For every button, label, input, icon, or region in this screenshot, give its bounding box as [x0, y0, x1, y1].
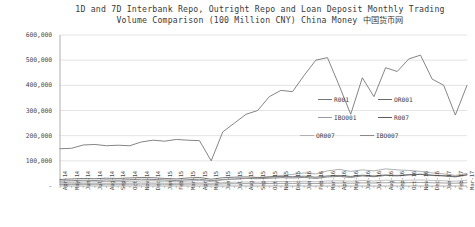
x-axis-tick-label: Mar-15	[190, 171, 196, 190]
legend-item-r001[interactable]: R001	[318, 95, 349, 103]
legend-label: IBO007	[376, 132, 398, 139]
x-axis-tick-label: Oct-16	[411, 171, 417, 190]
x-axis-tick-label: Feb-15	[178, 171, 184, 190]
x-axis-tick-label: Feb-16	[318, 171, 324, 190]
x-axis-tick-label: May-15	[213, 171, 219, 190]
legend-color-swatch	[300, 135, 314, 136]
legend-label: OR001	[394, 96, 413, 103]
x-axis-tick-label: Sep-14	[120, 171, 126, 190]
y-axis-tick-label: 600,000	[0, 31, 52, 39]
x-axis-tick-label: Aug-16	[388, 171, 394, 190]
y-axis-tick-label: 200,000	[0, 132, 52, 140]
legend-color-swatch	[378, 117, 392, 118]
x-axis-tick-label: Jun-16	[365, 171, 371, 190]
x-axis-tick-label: Aug-14	[109, 171, 115, 190]
y-axis-tick-label: -	[0, 182, 52, 190]
x-axis-tick-label: Jan-15	[167, 171, 173, 190]
x-axis-tick-label: Nov-16	[423, 171, 429, 190]
x-axis-tick-label: Jan-17	[446, 171, 452, 190]
legend-color-swatch	[360, 135, 374, 136]
y-axis-tick-label: 300,000	[0, 107, 52, 115]
x-axis-tick-label: Apr-16	[341, 171, 347, 190]
x-axis-tick-label: Jul-16	[376, 171, 382, 190]
y-axis-tick-label: 500,000	[0, 56, 52, 64]
legend-label: OR007	[316, 132, 335, 139]
x-axis-tick-label: Nov-15	[283, 171, 289, 190]
series-line-r001	[60, 55, 467, 161]
x-axis-tick-label: Mar-17	[469, 171, 475, 190]
legend-color-swatch	[378, 99, 392, 100]
y-axis-tick-label: 400,000	[0, 81, 52, 89]
x-axis-tick-label: Jan-16	[306, 171, 312, 190]
x-axis-tick-label: Nov-14	[144, 171, 150, 190]
legend-item-or001[interactable]: OR001	[378, 95, 413, 103]
axes	[60, 35, 467, 188]
legend-color-swatch	[318, 117, 332, 118]
x-axis-tick-label: Dec-15	[295, 171, 301, 190]
y-axis-tick-label: 100,000	[0, 157, 52, 165]
legend-label: R007	[394, 114, 409, 121]
x-axis-tick-label: Jul-14	[97, 171, 103, 190]
x-axis-tick-label: Apr-14	[62, 171, 68, 190]
legend-color-swatch	[318, 99, 332, 100]
legend-item-ibo001[interactable]: IBO001	[318, 113, 356, 121]
x-axis-tick-label: Oct-15	[272, 171, 278, 190]
x-axis-tick-label: Jun-14	[85, 171, 91, 190]
x-axis-tick-label: Oct-14	[132, 171, 138, 190]
x-axis-tick-label: May-14	[74, 171, 80, 190]
x-axis-tick-label: Feb-17	[458, 171, 464, 190]
x-axis-tick-label: Dec-16	[434, 171, 440, 190]
x-axis-tick-label: Aug-15	[248, 171, 254, 190]
x-axis-tick-label: Sep-16	[399, 171, 405, 190]
x-axis-tick-label: Jul-15	[237, 171, 243, 190]
legend-label: R001	[334, 96, 349, 103]
x-axis-tick-label: Jun-15	[225, 171, 231, 190]
x-axis-tick-label: Apr-15	[202, 171, 208, 190]
legend-label: IBO001	[334, 114, 356, 121]
legend-item-r007[interactable]: R007	[378, 113, 409, 121]
legend-item-ibo007[interactable]: IBO007	[360, 131, 398, 139]
x-axis-tick-label: Sep-15	[260, 171, 266, 190]
x-axis-tick-label: Dec-14	[155, 171, 161, 190]
x-axis-tick-label: Mar-16	[330, 171, 336, 190]
x-axis-tick-label: May-16	[353, 171, 359, 190]
legend-item-or007[interactable]: OR007	[300, 131, 335, 139]
